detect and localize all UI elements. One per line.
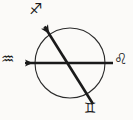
sagittarius-glyph: ♐ bbox=[29, 2, 43, 17]
gemini-glyph: ♊ bbox=[84, 101, 97, 115]
astrological-axis-diagram: ♐ ♒ ♌ ♊ bbox=[0, 0, 133, 120]
leo-glyph: ♌ bbox=[114, 52, 127, 67]
aquarius-glyph: ♒ bbox=[1, 52, 14, 67]
